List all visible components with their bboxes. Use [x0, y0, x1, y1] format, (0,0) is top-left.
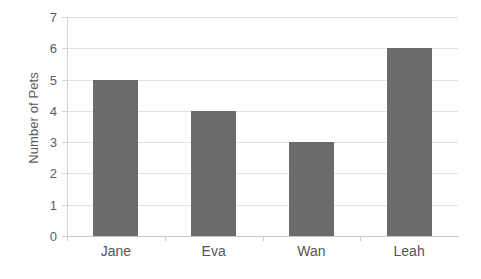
- bar: [289, 142, 334, 236]
- y-tick-label: 1: [19, 197, 67, 212]
- x-tick-mark: [165, 237, 166, 241]
- x-tick-mark: [360, 237, 361, 241]
- y-tick-mark: [62, 142, 67, 143]
- x-tick-mark: [67, 237, 68, 241]
- y-axis-tick-labels: 01234567: [0, 0, 67, 279]
- bar: [191, 111, 236, 236]
- y-tick-mark: [62, 111, 67, 112]
- x-tick-label: Eva: [202, 243, 226, 259]
- x-tick-label: Leah: [394, 243, 425, 259]
- y-tick-mark: [62, 205, 67, 206]
- y-tick-mark: [62, 48, 67, 49]
- y-tick-label: 5: [19, 72, 67, 87]
- bar: [93, 80, 138, 236]
- x-tick-mark: [263, 237, 264, 241]
- y-tick-label: 0: [19, 229, 67, 244]
- y-tick-label: 7: [19, 10, 67, 25]
- y-tick-label: 4: [19, 103, 67, 118]
- y-tick-mark: [62, 80, 67, 81]
- bar-chart: Number of Pets 01234567 JaneEvaWanLeah: [0, 0, 481, 279]
- x-tick-label: Wan: [297, 243, 325, 259]
- bar: [387, 48, 432, 236]
- x-tick-label: Jane: [101, 243, 131, 259]
- y-tick-label: 3: [19, 135, 67, 150]
- y-tick-label: 6: [19, 41, 67, 56]
- y-tick-mark: [62, 17, 67, 18]
- y-tick-label: 2: [19, 166, 67, 181]
- y-tick-mark: [62, 173, 67, 174]
- bars-layer: [67, 17, 458, 236]
